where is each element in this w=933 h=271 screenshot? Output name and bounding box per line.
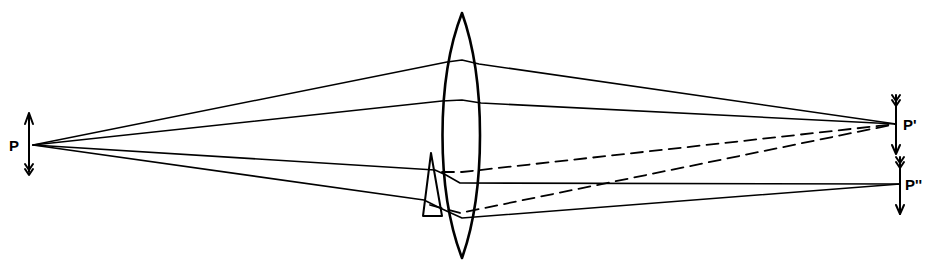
ray-lower-undeviated-dashed <box>442 124 896 172</box>
optics-diagram <box>0 0 933 271</box>
converging-lens <box>443 13 481 258</box>
ray-top <box>33 60 896 145</box>
label-image-P-double-prime: P'' <box>905 177 922 192</box>
ray-lower-deviated <box>33 145 900 184</box>
ray-bottom-deviated <box>33 145 900 218</box>
object-arrow <box>25 113 33 175</box>
label-image-P-prime: P' <box>903 117 917 132</box>
image-arrow-secondary <box>896 157 904 214</box>
label-object-P: P <box>9 138 19 153</box>
